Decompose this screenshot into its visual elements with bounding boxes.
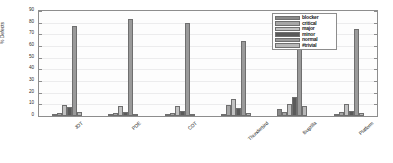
legend-swatch-normal: [275, 38, 300, 42]
y-axis-tick-label: 80: [20, 19, 34, 24]
y-axis-tick-label: 20: [20, 89, 34, 94]
x-axis-tick-label: PDE: [130, 120, 141, 131]
y-axis-tick-label: 50: [20, 54, 34, 59]
y-axis-tick-label: 40: [20, 66, 34, 71]
bar-trivial: [302, 106, 307, 116]
bar-trivial: [246, 113, 251, 116]
y-axis-tick-label: 60: [20, 43, 34, 48]
x-axis-tick-label: Thunderbird: [247, 120, 270, 141]
legend-swatch-critical: [275, 21, 300, 25]
bar-normal: [128, 19, 133, 116]
y-axis-tick-label: 0: [20, 113, 34, 118]
legend-item[interactable]: #trivial: [275, 43, 334, 48]
bar-normal: [354, 29, 359, 117]
legend-swatch-major: [275, 27, 300, 31]
bar-group: [208, 11, 264, 116]
bar-group: [39, 11, 95, 116]
bar-normal: [241, 41, 246, 116]
bar-trivial: [133, 114, 138, 116]
x-axis-tick-label: CDT: [186, 120, 197, 131]
bar-group: [152, 11, 208, 116]
x-axis-tick-label: Platform: [357, 120, 374, 136]
x-axis-tick-label: Bugzilla: [301, 120, 317, 135]
y-axis-tick: [39, 116, 42, 117]
bar-normal: [185, 23, 190, 116]
bar-trivial: [77, 112, 82, 116]
y-axis-tick-label: 70: [20, 31, 34, 36]
bar-trivial: [190, 114, 195, 116]
bar-normal: [72, 26, 77, 116]
y-axis-tick: [374, 116, 377, 117]
legend-label: #trivial: [302, 43, 317, 48]
y-axis-tick-label: 90: [20, 8, 34, 13]
y-axis-label: % Defects: [0, 22, 5, 44]
legend-swatch-minor: [275, 32, 300, 36]
x-axis-tick-label: JDT: [73, 120, 83, 130]
legend-swatch-trivial: [275, 43, 300, 47]
chart-legend: blockercriticalmajorminornormal#trivial: [272, 13, 337, 50]
bar-normal: [297, 43, 302, 117]
y-axis-tick-label: 30: [20, 78, 34, 83]
bar-trivial: [359, 113, 364, 116]
legend-swatch-blocker: [275, 16, 300, 20]
y-axis-tick-label: 10: [20, 101, 34, 106]
chart-figure: % Defects 0102030405060708090 JDTPDECDTT…: [0, 0, 393, 163]
bar-group: [95, 11, 151, 116]
